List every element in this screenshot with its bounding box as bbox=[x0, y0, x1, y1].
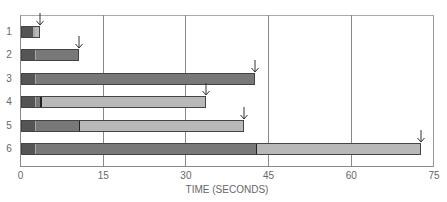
bar-3 bbox=[21, 73, 256, 85]
bar-segment-medium bbox=[35, 144, 256, 154]
bar-segment-light bbox=[34, 27, 41, 37]
segment-divider bbox=[256, 144, 258, 154]
bar-segment-dark bbox=[22, 50, 36, 60]
segment-divider bbox=[79, 121, 81, 131]
bar-segment-medium bbox=[35, 50, 79, 60]
bar-5 bbox=[21, 120, 244, 132]
down-arrow-icon bbox=[74, 36, 84, 50]
x-tick-label: 75 bbox=[428, 170, 439, 181]
x-tick-label: 30 bbox=[180, 170, 191, 181]
bar-segment-medium bbox=[35, 74, 255, 84]
row-label: 5 bbox=[4, 120, 14, 131]
segment-divider bbox=[35, 50, 37, 60]
x-tick-label: 15 bbox=[98, 170, 109, 181]
x-tick-label: 0 bbox=[18, 170, 24, 181]
bar-4 bbox=[21, 96, 207, 108]
bar-segment-dark bbox=[22, 121, 36, 131]
segment-divider bbox=[33, 27, 35, 37]
segment-divider bbox=[40, 97, 42, 107]
x-tick-label: 60 bbox=[346, 170, 357, 181]
x-axis-label: TIME (SECONDS) bbox=[0, 184, 447, 195]
row-label: 4 bbox=[4, 96, 14, 107]
bar-segment-light bbox=[41, 97, 207, 107]
segment-divider bbox=[35, 121, 37, 131]
segment-divider bbox=[35, 144, 37, 154]
row-label: 1 bbox=[4, 26, 14, 37]
segment-divider bbox=[35, 74, 37, 84]
x-tick-label: 45 bbox=[263, 170, 274, 181]
bar-6 bbox=[21, 143, 421, 155]
row-label: 3 bbox=[4, 73, 14, 84]
bar-segment-dark bbox=[22, 27, 34, 37]
bar-segment-dark bbox=[22, 74, 36, 84]
down-arrow-icon bbox=[416, 130, 426, 144]
row-label: 2 bbox=[4, 49, 14, 60]
bar-1 bbox=[21, 26, 41, 38]
bar-segment-medium bbox=[35, 121, 79, 131]
row-label: 6 bbox=[4, 143, 14, 154]
down-arrow-icon bbox=[201, 83, 211, 97]
bar-segment-dark bbox=[22, 97, 36, 107]
segment-divider bbox=[35, 97, 37, 107]
bar-2 bbox=[21, 49, 79, 61]
down-arrow-icon bbox=[239, 107, 249, 121]
bar-segment-dark bbox=[22, 144, 36, 154]
down-arrow-icon bbox=[250, 60, 260, 74]
bar-segment-light bbox=[256, 144, 420, 154]
down-arrow-icon bbox=[35, 13, 45, 27]
bar-segment-light bbox=[79, 121, 243, 131]
